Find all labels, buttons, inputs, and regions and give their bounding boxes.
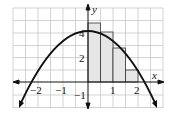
rectangle-4: [126, 70, 139, 82]
tick-x-neg1: −1: [55, 84, 67, 96]
x-axis-label: x: [151, 69, 157, 81]
tick-y-neg1: −1: [74, 89, 86, 101]
tick-y-4: 4: [79, 27, 85, 39]
tick-x-neg2: −2: [30, 84, 42, 96]
y-axis-up-arrow-icon: [86, 4, 90, 10]
y-axis-label: y: [91, 3, 97, 15]
tick-x-1: 1: [110, 84, 116, 96]
y-axis-down-arrow-icon: [86, 103, 90, 109]
tick-y-2: 2: [79, 52, 85, 64]
tick-x-2: 2: [134, 84, 140, 96]
parabola-diagram: x y −2 −1 1 2 4 2 −1: [0, 0, 170, 117]
x-axis-left-arrow-icon: [13, 80, 19, 84]
rectangle-3: [113, 48, 126, 82]
